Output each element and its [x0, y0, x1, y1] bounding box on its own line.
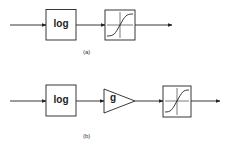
- log-label-b: log: [46, 94, 76, 105]
- log-label-a: log: [46, 18, 76, 29]
- caption-b: (b): [83, 133, 90, 139]
- caption-a: (a): [83, 49, 90, 55]
- gain-label-b: g: [107, 92, 119, 103]
- sigmoid-icon: [165, 88, 189, 115]
- block-diagram: [0, 0, 235, 149]
- sigmoid-icon: [107, 12, 133, 38]
